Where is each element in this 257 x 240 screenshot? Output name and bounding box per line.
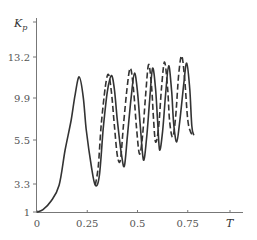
x-tick-label: 0.25 xyxy=(76,218,98,229)
y-tick-label: 1 xyxy=(24,207,30,218)
y-ticks: 13.35.59.913.2 xyxy=(8,22,37,218)
x-tick-label: 0.5 xyxy=(130,218,146,229)
series-group xyxy=(37,56,194,212)
y-axis-title: Kp xyxy=(13,17,27,32)
chart: 13.35.59.913.2 00.250.50.75 Kp T xyxy=(0,0,257,240)
y-tick-label: 9.9 xyxy=(14,93,30,104)
y-tick-label: 13.2 xyxy=(8,52,30,63)
y-tick-label: 5.5 xyxy=(14,135,30,146)
y-tick-label: 3.3 xyxy=(14,179,30,190)
x-tick-label: 0 xyxy=(34,218,40,229)
x-axis-title: T xyxy=(226,217,235,230)
dashed-series-line xyxy=(95,56,194,185)
x-tick-label: 0.75 xyxy=(177,218,199,229)
